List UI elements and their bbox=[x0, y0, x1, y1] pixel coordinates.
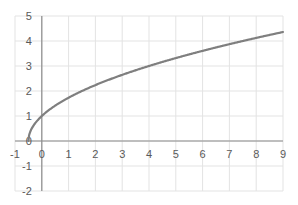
y-tick-label: 4 bbox=[26, 35, 32, 47]
x-axis-tick-labels: -10123456789 bbox=[10, 148, 286, 160]
y-axis-tick-labels: 543210-1-2 bbox=[22, 10, 32, 197]
y-tick-label: -2 bbox=[22, 185, 32, 197]
x-tick-label: 5 bbox=[173, 148, 179, 160]
y-tick-label: 3 bbox=[26, 60, 32, 72]
x-tick-label: 4 bbox=[146, 148, 152, 160]
x-tick-label: 2 bbox=[92, 148, 98, 160]
y-tick-label: 5 bbox=[26, 10, 32, 22]
data-series-line bbox=[28, 32, 283, 141]
y-tick-label: 1 bbox=[26, 110, 32, 122]
line-chart: -10123456789 543210-1-2 bbox=[0, 0, 298, 205]
x-tick-label: 8 bbox=[253, 148, 259, 160]
x-tick-label: 6 bbox=[200, 148, 206, 160]
x-tick-label: 1 bbox=[66, 148, 72, 160]
x-tick-label: 7 bbox=[226, 148, 232, 160]
x-tick-label: 0 bbox=[39, 148, 45, 160]
x-tick-label: 3 bbox=[119, 148, 125, 160]
y-tick-label: 2 bbox=[26, 85, 32, 97]
x-tick-label: -1 bbox=[10, 148, 20, 160]
y-tick-label: -1 bbox=[22, 160, 32, 172]
x-tick-label: 9 bbox=[280, 148, 286, 160]
gridlines bbox=[15, 16, 283, 191]
